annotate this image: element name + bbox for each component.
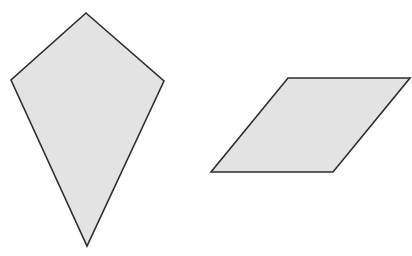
kite-shape bbox=[11, 13, 164, 246]
diagram-canvas bbox=[0, 0, 412, 256]
parallelogram-shape bbox=[211, 78, 410, 172]
